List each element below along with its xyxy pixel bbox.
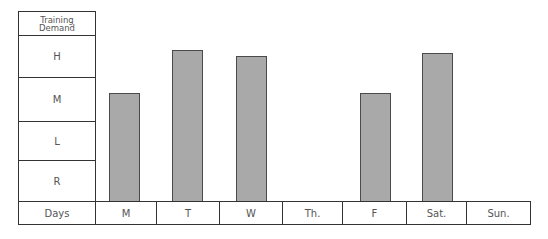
level-label: M (53, 94, 62, 105)
level-label: R (54, 176, 61, 187)
day-cell: W (219, 201, 283, 225)
day-cell: Sat. (406, 201, 467, 225)
bar-w (236, 56, 267, 201)
x-axis-label: Days (18, 201, 96, 225)
day-cell: Sun. (466, 201, 531, 225)
level-m: M (18, 77, 96, 122)
days-label: Days (45, 208, 70, 219)
day-cell: F (342, 201, 407, 225)
bar-sat (422, 53, 453, 201)
day-label: Sat. (427, 208, 447, 219)
day-label: Th. (305, 208, 321, 219)
level-h: H (18, 35, 96, 78)
day-label: T (185, 208, 191, 219)
y-axis-header: Training Demand (18, 11, 96, 36)
level-label: H (53, 51, 61, 62)
y-axis-title-line2: Demand (39, 24, 75, 32)
level-label: L (54, 136, 60, 147)
day-cell: Th. (282, 201, 343, 225)
day-label: F (372, 208, 378, 219)
bar-t (172, 50, 203, 201)
day-label: W (246, 208, 256, 219)
day-label: Sun. (487, 208, 509, 219)
bar-f (360, 93, 391, 201)
day-label: M (122, 208, 131, 219)
day-cell: M (95, 201, 157, 225)
day-cell: T (156, 201, 220, 225)
bar-m (109, 93, 140, 201)
level-r: R (18, 160, 96, 202)
level-l: L (18, 121, 96, 161)
